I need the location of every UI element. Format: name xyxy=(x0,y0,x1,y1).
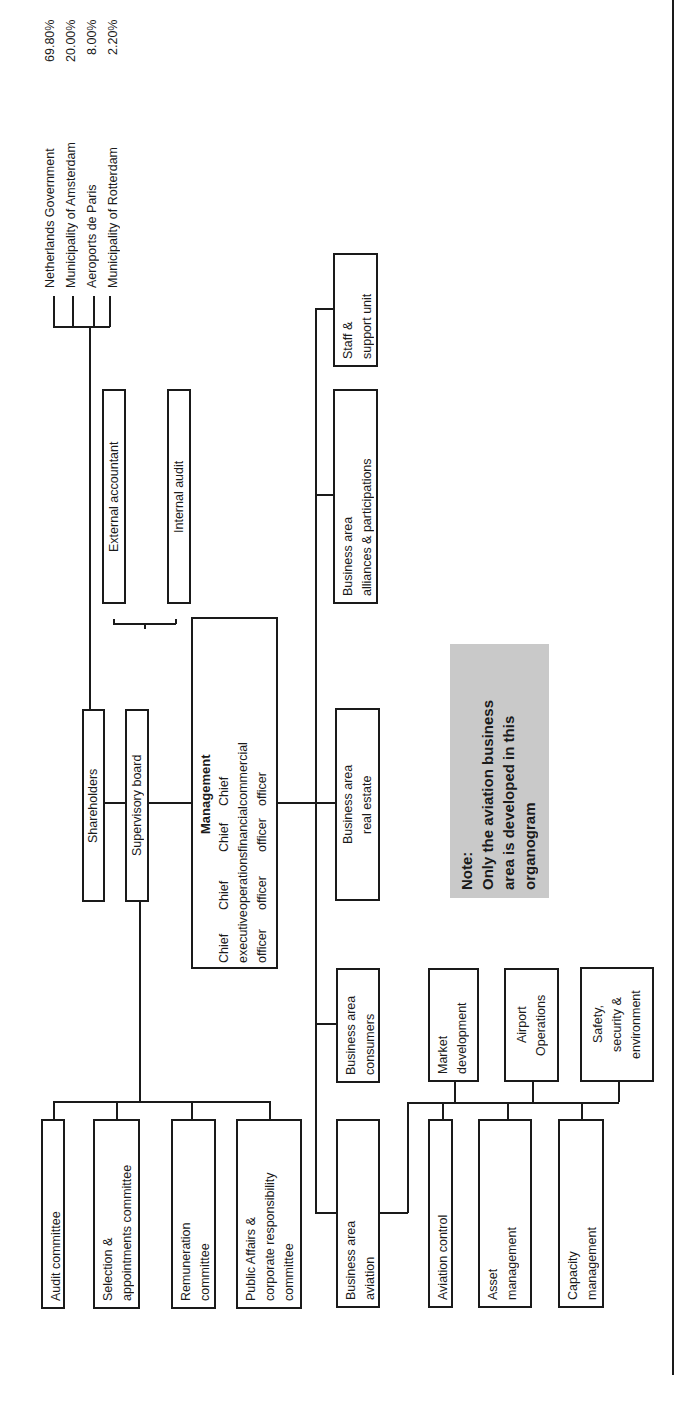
note-line: organogram xyxy=(519,652,540,890)
officer-cfo: Chieffinancialofficer xyxy=(215,806,299,852)
node-label: Selection & xyxy=(99,1127,118,1301)
node-label: Market xyxy=(434,976,453,1074)
management-box: ManagementChiefexecutiveofficerChiefoper… xyxy=(191,617,278,969)
node-label: committee xyxy=(196,1127,215,1301)
officer-line: officer xyxy=(253,742,272,806)
node-label: management xyxy=(503,1127,522,1300)
node-label: Shareholders xyxy=(84,717,103,894)
officer-line: officer xyxy=(253,806,272,852)
shareholder-share: 2.20% xyxy=(103,20,123,78)
real-estate-box: Business area real estate xyxy=(335,708,380,901)
shareholder-share: 20.00% xyxy=(61,20,81,78)
node-label: Capacity xyxy=(564,1127,583,1300)
page-rule xyxy=(672,0,674,1375)
node-label: Staff & xyxy=(339,261,358,359)
connector xyxy=(379,1212,408,1214)
external-accountant-box: External accountant xyxy=(102,389,126,604)
node-label: real estate xyxy=(358,716,377,893)
connector xyxy=(116,1101,118,1119)
connector xyxy=(315,494,334,496)
capacity-management-box: Capacity management xyxy=(558,1119,604,1308)
aviation-control-box: Aviation control xyxy=(428,1119,453,1308)
node-label: security & xyxy=(608,975,627,1074)
node-label: alliances & participations xyxy=(358,397,377,596)
node-label: appointments committee xyxy=(118,1127,137,1301)
shareholder-name: Netherlands Government xyxy=(40,100,60,288)
node-label: consumers xyxy=(361,976,380,1075)
connector xyxy=(53,326,110,328)
connector xyxy=(109,296,111,327)
connector xyxy=(104,802,126,804)
connector xyxy=(53,1101,271,1103)
bracket xyxy=(144,623,146,629)
connector xyxy=(191,1101,193,1119)
node-label: Airport xyxy=(513,976,532,1074)
connector xyxy=(507,1102,509,1119)
node-label: aviation xyxy=(361,1127,380,1300)
node-label: Operations xyxy=(532,976,551,1074)
officer-line: commercial xyxy=(234,742,253,806)
connector xyxy=(454,1081,456,1102)
connector xyxy=(407,1102,409,1213)
airport-operations-box: Airport Operations xyxy=(504,968,559,1082)
node-label: Audit committee xyxy=(47,1127,66,1301)
aviation-bus xyxy=(407,1102,619,1104)
connector xyxy=(315,802,335,804)
connector xyxy=(315,308,334,310)
note-line: Note: xyxy=(456,652,477,890)
node-label: Public Affairs & xyxy=(242,1127,261,1301)
alliances-box: Business area alliances & participations xyxy=(333,389,378,604)
node-label: External accountant xyxy=(105,397,124,596)
node-label: management xyxy=(583,1127,602,1300)
connector xyxy=(148,802,191,804)
market-development-box: Market development xyxy=(428,968,479,1082)
node-label: Business area xyxy=(342,1127,361,1300)
connector xyxy=(581,1102,583,1119)
selection-committee-box: Selection & appointments committee xyxy=(93,1119,140,1309)
shareholder-name: Municipality of Amsterdam xyxy=(61,100,81,288)
node-label: Internal audit xyxy=(170,397,189,596)
aviation-box: Business area aviation xyxy=(336,1119,380,1308)
officer-line: Chief xyxy=(215,806,234,852)
connector xyxy=(53,296,55,327)
note-box: Note: Only the aviation business area is… xyxy=(450,644,549,898)
node-label: Business area xyxy=(342,976,361,1075)
connector xyxy=(72,296,74,327)
shareholders-box: Shareholders xyxy=(82,709,105,902)
officer-line: Chief xyxy=(215,852,234,910)
officer-ceo: Chiefexecutiveofficer xyxy=(215,910,299,963)
officer-coo: Chiefoperationsofficer xyxy=(215,852,299,910)
shareholder-name: Aeroports de Paris xyxy=(82,100,102,288)
shareholder-share: 69.80% xyxy=(40,20,60,78)
officer-line: financial xyxy=(234,806,253,852)
officer-line: Chief xyxy=(215,910,234,963)
node-label: Aviation control xyxy=(434,1127,453,1300)
officer-line: officer xyxy=(253,910,272,963)
node-label: corporate responsibility xyxy=(261,1127,280,1301)
remuneration-committee-box: Remuneration committee xyxy=(171,1119,216,1309)
staff-support-box: Staff & support unit xyxy=(333,253,378,367)
node-label: Remuneration xyxy=(177,1127,196,1301)
node-label: committee xyxy=(280,1127,299,1301)
connector xyxy=(442,1102,444,1119)
shareholder-name: Municipality of Rotterdam xyxy=(103,100,123,288)
node-label: Business area xyxy=(339,397,358,596)
node-label: Supervisory board xyxy=(128,717,147,894)
audit-committee-box: Audit committee xyxy=(41,1119,65,1309)
connector xyxy=(269,1101,271,1119)
connector xyxy=(532,1081,534,1102)
node-label: Business area xyxy=(339,716,358,893)
connector xyxy=(618,1081,620,1102)
safety-security-environment-box: Safety, security & environment xyxy=(580,967,654,1082)
officer-line: executive xyxy=(234,910,253,963)
node-label: development xyxy=(453,976,472,1074)
connector xyxy=(315,1023,336,1025)
officer-line: operations xyxy=(234,852,253,910)
node-label: Asset xyxy=(484,1127,503,1300)
note-line: Only the aviation business xyxy=(477,652,498,890)
officer-cco: Chiefcommercialofficer xyxy=(215,742,299,806)
business-spine xyxy=(315,308,317,1213)
public-affairs-committee-box: Public Affairs & corporate responsibilit… xyxy=(236,1119,302,1309)
node-label: support unit xyxy=(358,261,377,359)
connector xyxy=(315,1212,336,1214)
